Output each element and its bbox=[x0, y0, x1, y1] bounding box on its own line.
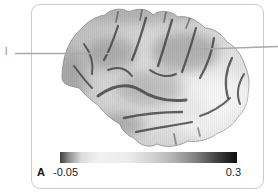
panel-letter-label: A bbox=[37, 166, 45, 178]
figure-panel: l A -0.05 0.3 bbox=[0, 0, 278, 195]
left-pointer-label: l bbox=[5, 46, 7, 57]
colorbar-min-label: -0.05 bbox=[53, 166, 78, 178]
colorbar-gradient bbox=[60, 152, 237, 163]
colorbar-max-label: 0.3 bbox=[200, 166, 241, 178]
scanline-texture bbox=[55, 5, 255, 150]
